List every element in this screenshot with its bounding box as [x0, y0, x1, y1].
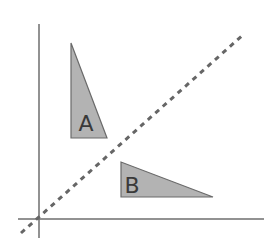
reflection-diagram: A B — [0, 0, 277, 242]
triangle-b-label: B — [124, 173, 139, 198]
mirror-line-dashed — [21, 34, 244, 233]
triangle-a-label: A — [78, 111, 93, 136]
